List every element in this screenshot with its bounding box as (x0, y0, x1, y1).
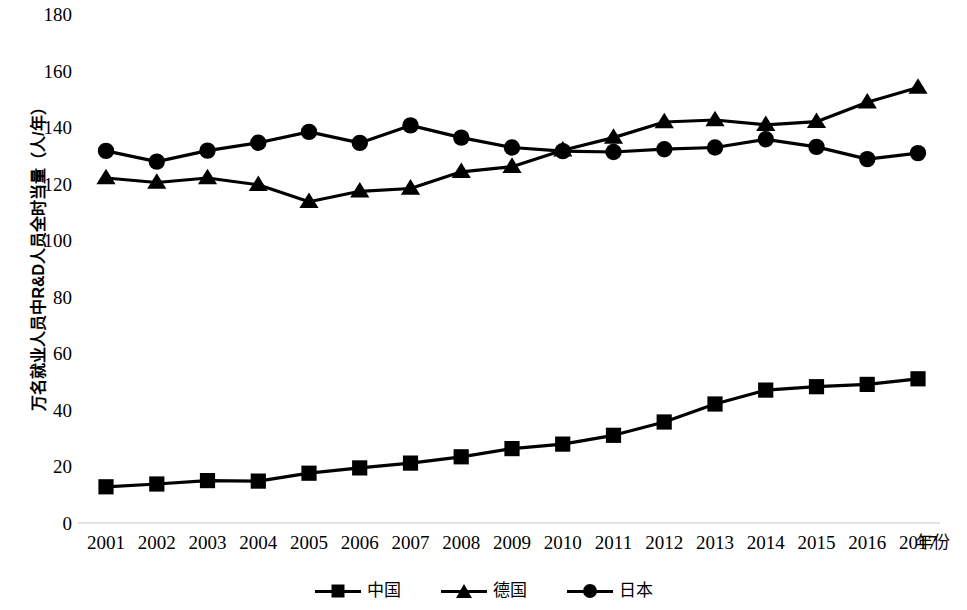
circle-marker (402, 117, 418, 133)
square-marker (657, 414, 672, 429)
triangle-marker (198, 169, 217, 185)
legend-label: 德国 (493, 581, 527, 601)
square-marker (200, 473, 215, 488)
circle-marker (808, 139, 824, 155)
legend-swatch (441, 581, 487, 601)
y-axis-tick-label: 160 (16, 62, 72, 81)
circle-marker (707, 139, 723, 155)
circle-marker (199, 142, 215, 158)
triangle-marker (908, 78, 927, 94)
y-axis-tick-label: 20 (16, 457, 72, 476)
square-marker (758, 383, 773, 398)
x-axis-tick-labels: 2001200220032004200520062007200820092010… (78, 531, 950, 561)
circle-marker (758, 131, 774, 147)
square-marker (301, 466, 316, 481)
square-marker (454, 449, 469, 464)
line-chart: 万名就业人员中R&D人员全时当量（人/年） 020406080100120140… (0, 0, 967, 610)
y-axis-tick-label: 120 (16, 175, 72, 194)
y-axis-tick-label: 80 (16, 288, 72, 307)
circle-marker (453, 129, 469, 145)
plot-svg (78, 6, 950, 526)
square-marker (707, 396, 722, 411)
circle-marker (605, 144, 621, 160)
y-axis-tick-label: 60 (16, 344, 72, 363)
series-line (106, 379, 918, 487)
y-axis-tick-label: 180 (16, 5, 72, 24)
square-marker (251, 474, 266, 489)
legend-item-2[interactable]: 德国 (441, 581, 527, 601)
legend-label: 中国 (367, 581, 401, 601)
chart-legend: 中国德国日本 (0, 575, 967, 607)
legend-item-1[interactable]: 中国 (315, 581, 401, 601)
legend-swatch (315, 581, 361, 601)
triangle-marker (705, 111, 724, 127)
circle-marker (910, 145, 926, 161)
square-marker (403, 456, 418, 471)
y-axis-tick-label: 100 (16, 231, 72, 250)
x-axis-title: 年份 (916, 531, 950, 555)
y-axis-tick-label: 40 (16, 401, 72, 420)
circle-marker (583, 584, 597, 598)
y-axis-tick-label: 140 (16, 118, 72, 137)
triangle-marker (456, 584, 472, 598)
circle-marker (859, 151, 875, 167)
square-marker (910, 371, 925, 386)
circle-marker (149, 153, 165, 169)
triangle-marker (96, 169, 115, 185)
circle-marker (301, 124, 317, 140)
square-marker (98, 479, 113, 494)
circle-marker (352, 135, 368, 151)
y-axis-tick-labels: 020406080100120140160180 (16, 0, 72, 540)
y-axis-tick-label: 0 (16, 514, 72, 533)
circle-marker (555, 143, 571, 159)
circle-marker (98, 143, 114, 159)
square-marker (809, 379, 824, 394)
circle-marker (504, 139, 520, 155)
circle-marker (250, 135, 266, 151)
legend-label: 日本 (619, 581, 653, 601)
square-marker (860, 377, 875, 392)
legend-swatch (567, 581, 613, 601)
series-1 (98, 371, 925, 494)
square-marker (555, 437, 570, 452)
legend-item-3[interactable]: 日本 (567, 581, 653, 601)
circle-marker (656, 141, 672, 157)
square-marker (606, 428, 621, 443)
square-marker (149, 476, 164, 491)
plot-area (78, 6, 950, 526)
square-marker (352, 460, 367, 475)
square-marker (504, 441, 519, 456)
square-marker (331, 585, 344, 598)
